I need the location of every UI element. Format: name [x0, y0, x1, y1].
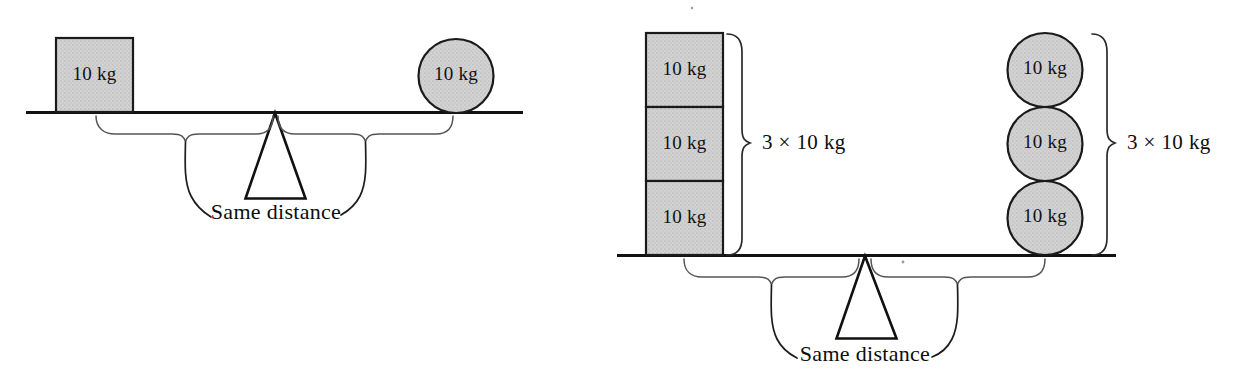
panel-left: 10 kg 10 kg Same distance	[26, 38, 523, 224]
same-distance-label-left-panel: Same distance	[211, 199, 341, 224]
circle-weight-left-panel: 10 kg	[419, 39, 494, 113]
square-weight-label: 10 kg	[72, 63, 116, 84]
balance-diagram-svg: 10 kg 10 kg Same distance	[0, 0, 1241, 384]
panel-right: 10 kg 10 kg 10 kg 3 × 10 kg 10 kg 10 kg …	[617, 7, 1211, 366]
fulcrum-triangle-right-panel	[837, 256, 897, 339]
brace-circle-stack-total	[1092, 34, 1115, 255]
leader-left-same-distance	[771, 285, 797, 358]
brace-left-distance	[684, 259, 859, 285]
leader-left-same-distance	[185, 142, 211, 217]
circle-weight-label: 10 kg	[434, 63, 478, 84]
fulcrum-triangle-left-panel	[246, 113, 306, 199]
square-weight-label: 10 kg	[662, 58, 706, 79]
circle-weight-label: 10 kg	[1023, 57, 1067, 78]
circle-weight-label: 10 kg	[1023, 205, 1067, 226]
leader-right-same-distance	[932, 285, 958, 357]
figure-canvas: 10 kg 10 kg Same distance	[0, 0, 1241, 384]
square-weight-label: 10 kg	[662, 132, 706, 153]
square-stack-total-label: 3 × 10 kg	[762, 130, 846, 154]
brace-left-distance	[96, 116, 273, 142]
scan-speck	[902, 261, 905, 264]
scan-speck	[691, 7, 693, 9]
brace-square-stack-total	[727, 34, 750, 255]
circle-weight-label: 10 kg	[1023, 131, 1067, 152]
brace-right-distance	[871, 259, 1045, 285]
square-weight-stack: 10 kg 10 kg 10 kg	[646, 33, 723, 255]
square-weight-left-panel: 10 kg	[56, 38, 133, 112]
square-weight-label: 10 kg	[662, 206, 706, 227]
same-distance-label-right-panel: Same distance	[800, 341, 930, 366]
brace-right-distance	[278, 116, 453, 142]
leader-right-same-distance	[341, 142, 366, 215]
circle-weight-stack: 10 kg 10 kg 10 kg	[1008, 33, 1083, 255]
circle-stack-total-label: 3 × 10 kg	[1127, 130, 1211, 154]
